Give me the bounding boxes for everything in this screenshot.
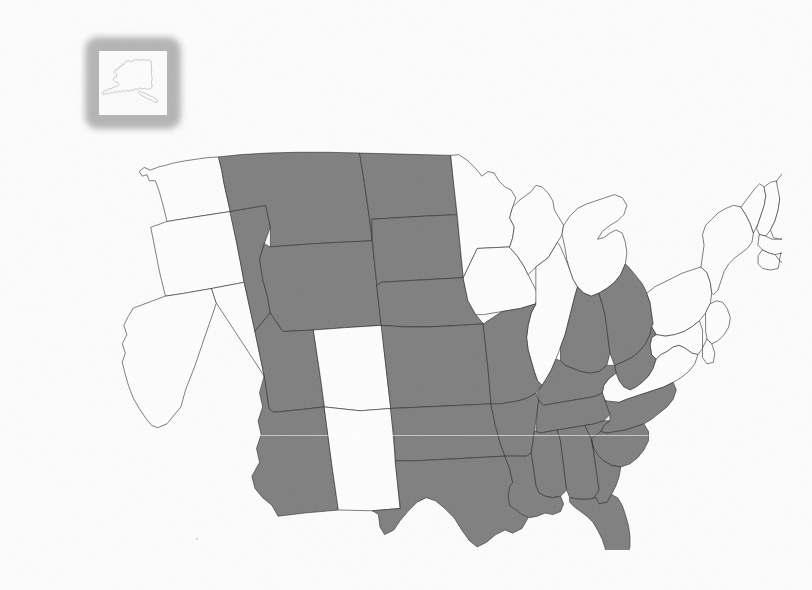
- alaska-state-shape[interactable]: [99, 51, 167, 115]
- state-OR[interactable]: [151, 212, 244, 297]
- state-WY[interactable]: [260, 241, 382, 332]
- state-CO[interactable]: [314, 325, 391, 410]
- state-AK: [102, 59, 158, 102]
- state-RI[interactable]: [780, 253, 782, 264]
- us-states-map[interactable]: [42, 150, 782, 550]
- state-WA[interactable]: [139, 157, 230, 222]
- state-SD[interactable]: [372, 215, 463, 286]
- state-OK[interactable]: [391, 404, 505, 461]
- map-figure: [0, 0, 812, 590]
- alaska-inset[interactable]: [85, 37, 181, 129]
- state-CA[interactable]: [122, 288, 216, 427]
- state-PA[interactable]: [647, 267, 712, 336]
- state-KS[interactable]: [382, 324, 492, 409]
- state-NJ[interactable]: [706, 301, 731, 344]
